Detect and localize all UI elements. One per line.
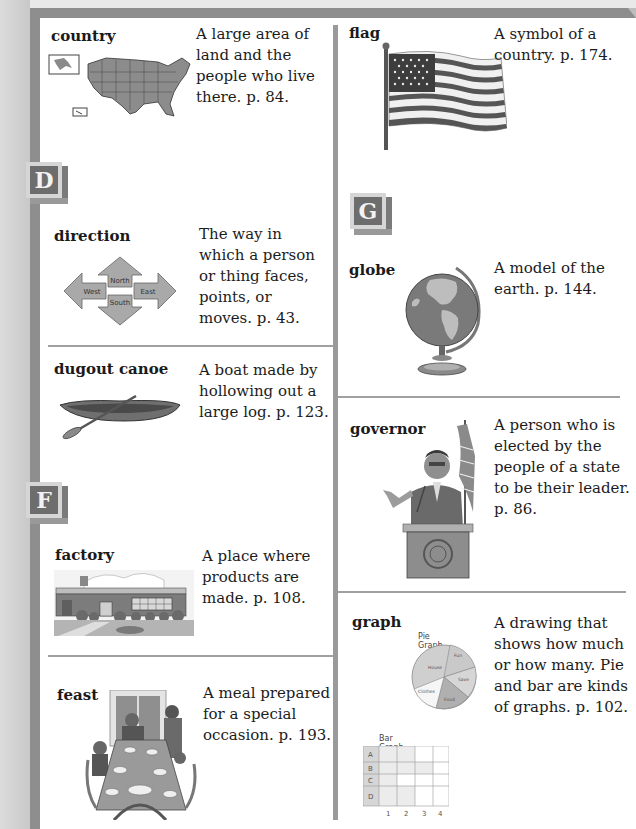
arrow-label-north: North — [110, 277, 130, 285]
term-factory: factory — [55, 546, 114, 564]
letter-f: F — [30, 486, 58, 514]
svg-text:C: C — [368, 777, 373, 785]
svg-text:Save: Save — [458, 677, 469, 682]
arrow-label-south: South — [110, 299, 130, 307]
letter-d: D — [30, 166, 58, 194]
definition-flag: A symbol of a country. p. 174. — [494, 24, 624, 66]
compass-arrows-icon: North South West East — [62, 255, 178, 327]
svg-text:A: A — [368, 751, 373, 759]
definition-globe: A model of the earth. p. 144. — [494, 258, 624, 300]
column-divider — [333, 25, 338, 820]
letter-block-f: F — [26, 482, 68, 524]
term-flag: flag — [349, 24, 380, 42]
svg-text:1: 1 — [386, 810, 390, 818]
definition-governor: A person who is elected by the people of… — [494, 415, 634, 520]
term-country: country — [51, 27, 116, 45]
letter-g: G — [354, 197, 382, 225]
svg-text:D: D — [368, 793, 373, 801]
bar-graph: ABCD 1234 — [363, 746, 449, 818]
definition-factory: A place where products are made. p. 108. — [202, 546, 332, 609]
globe-icon — [404, 266, 484, 378]
divider — [48, 345, 333, 347]
page-frame-corner — [628, 8, 636, 18]
term-dugout-canoe: dugout canoe — [54, 360, 168, 378]
term-globe: globe — [349, 261, 395, 279]
definition-direction: The way in which a person or thing faces… — [199, 224, 329, 329]
divider — [338, 396, 620, 398]
page-edge-strip — [0, 0, 30, 829]
canoe-icon — [58, 395, 182, 441]
us-map-icon — [46, 52, 196, 122]
svg-text:House: House — [428, 665, 442, 670]
page-frame-left — [30, 8, 40, 829]
arrow-label-west: West — [83, 288, 100, 296]
divider — [48, 655, 333, 657]
us-flag-icon — [381, 42, 507, 152]
term-direction: direction — [54, 227, 130, 245]
letter-block-g: G — [350, 193, 392, 235]
svg-text:B: B — [368, 765, 373, 773]
definition-dugout-canoe: A boat made by hollowing out a large log… — [199, 360, 329, 423]
svg-text:3: 3 — [422, 810, 426, 818]
pie-graph: House Fun Save Food Clothes — [410, 643, 478, 711]
arrow-label-east: East — [140, 288, 155, 296]
page-frame-top — [30, 8, 636, 18]
definition-feast: A meal prepared for a special occasion. … — [203, 683, 333, 746]
svg-text:2: 2 — [404, 810, 408, 818]
divider — [338, 591, 626, 593]
speaker-podium-icon — [381, 416, 477, 580]
svg-text:Food: Food — [444, 697, 455, 702]
svg-text:4: 4 — [438, 810, 443, 818]
letter-block-d: D — [26, 162, 68, 204]
term-graph: graph — [352, 613, 402, 631]
svg-text:Fun: Fun — [454, 653, 462, 658]
svg-text:Clothes: Clothes — [418, 689, 436, 694]
definition-country: A large area of land and the people who … — [196, 24, 326, 108]
family-dinner-icon — [82, 690, 200, 820]
definition-graph: A drawing that shows how much or how man… — [494, 613, 634, 718]
factory-building-icon — [54, 570, 194, 636]
